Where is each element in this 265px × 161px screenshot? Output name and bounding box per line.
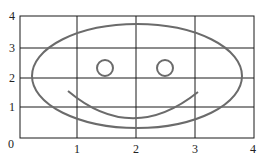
x-tick-4: 4 bbox=[250, 142, 256, 156]
x-tick-3: 3 bbox=[192, 142, 198, 156]
x-tick-1: 1 bbox=[74, 142, 80, 156]
y-tick-3: 3 bbox=[9, 41, 15, 55]
right-eye bbox=[157, 60, 173, 76]
origin-label: 0 bbox=[8, 137, 14, 151]
y-tick-1: 1 bbox=[9, 100, 15, 114]
face-outline bbox=[32, 24, 242, 128]
x-tick-2: 2 bbox=[133, 142, 139, 156]
mouth-smile bbox=[68, 91, 198, 118]
grid bbox=[20, 16, 254, 138]
left-eye bbox=[97, 60, 113, 76]
y-tick-2: 2 bbox=[9, 71, 15, 85]
smiley-grid-diagram: 4 3 2 1 0 1 2 3 4 bbox=[0, 0, 265, 161]
y-tick-4: 4 bbox=[9, 9, 15, 23]
